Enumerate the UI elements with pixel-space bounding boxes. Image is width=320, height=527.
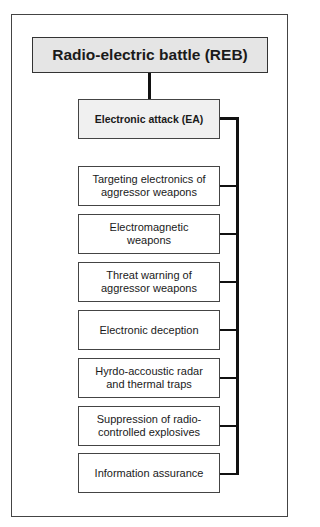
child-node-information-assurance: Information assurance	[78, 453, 220, 493]
connector-child-3	[220, 281, 237, 283]
connector-child-1	[220, 185, 237, 187]
branch-node-label: Electronic attack (EA)	[95, 113, 204, 125]
child-node-threat-warning: Threat warning of aggressor weapons	[78, 262, 220, 302]
connector-child-2	[220, 233, 237, 235]
connector-root-to-ea	[148, 73, 151, 99]
connector-child-5	[220, 377, 237, 379]
connector-child-7	[220, 473, 237, 475]
connector-vertical-bracket	[236, 117, 239, 475]
child-node-targeting-electronics: Targeting electronics of aggressor weapo…	[78, 166, 220, 206]
connector-child-6	[220, 425, 237, 427]
connector-child-4	[220, 329, 237, 331]
child-node-electromagnetic-weapons: Electromagnetic weapons	[78, 214, 220, 254]
root-node-label: Radio-electric battle (REB)	[52, 46, 248, 64]
child-node-hydro-acoustic-radar: Hyrdo-accoustic radar and thermal traps	[78, 358, 220, 398]
branch-node-electronic-attack: Electronic attack (EA)	[78, 99, 220, 139]
child-node-electronic-deception: Electronic deception	[78, 310, 220, 350]
child-node-suppression-explosives: Suppression of radio-controlled explosiv…	[78, 406, 220, 446]
root-node: Radio-electric battle (REB)	[32, 37, 268, 73]
